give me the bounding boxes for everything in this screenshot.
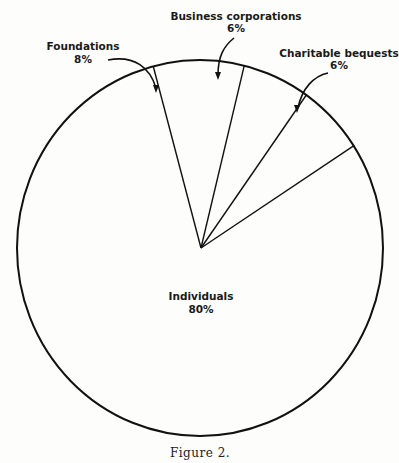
- slice-boundary-3: [201, 145, 354, 248]
- arrow-business-head: [215, 72, 221, 80]
- label-individuals-value: 80%: [188, 303, 214, 315]
- label-business-name: Business corporations: [170, 10, 301, 22]
- pie-outline: [17, 60, 383, 436]
- figure-caption: Figure 2.: [170, 446, 230, 460]
- arrow-business: [218, 38, 234, 75]
- slice-boundary-2: [201, 95, 307, 249]
- label-business-value: 6%: [227, 22, 245, 34]
- label-foundations-value: 8%: [74, 53, 92, 65]
- arrow-foundations-head: [153, 85, 159, 93]
- pie-chart: Individuals 80% Foundations 8% Business …: [0, 0, 399, 463]
- label-foundations-name: Foundations: [46, 40, 119, 52]
- label-individuals-name: Individuals: [169, 290, 234, 302]
- slice-boundary-0: [153, 67, 201, 249]
- arrow-bequests: [298, 73, 328, 108]
- label-bequests-name: Charitable bequests: [279, 47, 398, 59]
- label-bequests-value: 6%: [330, 59, 348, 71]
- slice-boundary-1: [201, 65, 244, 248]
